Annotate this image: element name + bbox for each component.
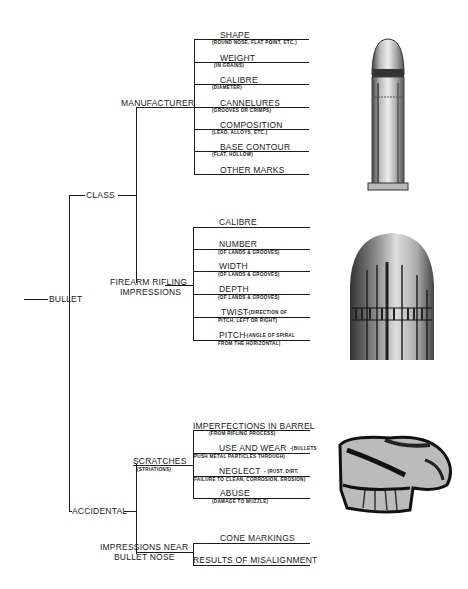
mfr-weight-sub: (IN GRAINS) — [214, 64, 244, 69]
rif-width: WIDTH — [219, 262, 248, 271]
scr-imperfections-sub: (FROM RIFLING PROCESS) — [209, 432, 276, 437]
nose-cone-markings: CONE MARKINGS — [220, 534, 295, 543]
rif-pitch-inline: -(ANGLE OF SPIRAL — [245, 334, 295, 339]
mfr-cannelures-sub: (GROOVES OR CRIMPS) — [212, 109, 271, 114]
rif-pitch: PITCH — [219, 331, 246, 340]
node-nose-line1: IMPRESSIONS NEAR — [100, 543, 188, 552]
nose-out-line — [136, 552, 193, 553]
class-branch-line — [69, 195, 85, 196]
scr-neglect-inline: - (RUST, DIRT, — [264, 470, 299, 475]
mfr-calibre-sub: (DIAMETER) — [212, 86, 242, 91]
rif-number: NUMBER — [219, 240, 257, 249]
rifling-out-line — [165, 285, 193, 286]
rif-number-sub: (OF LANDS & GROOVES) — [218, 251, 280, 256]
scr-use-wear-inline: -(BULLETS — [290, 447, 317, 452]
rif-width-sub: (OF LANDS & GROOVES) — [218, 273, 280, 278]
mfr-shape-sub: (ROUND NOSE, FLAT POINT, ETC.) — [212, 41, 297, 46]
mfr-base-contour-sub: (FLAT, HOLLOW) — [212, 153, 253, 158]
class-vertical-line — [136, 107, 137, 283]
deformed-bullet-photo — [335, 430, 460, 515]
nose-sep-1 — [193, 543, 310, 544]
rif-depth-sub: (OF LANDS & GROOVES) — [218, 296, 280, 301]
mfr-cannelures: CANNELURES — [220, 99, 280, 108]
rif-calibre: CALIBRE — [219, 218, 257, 227]
rif-sep-1 — [193, 227, 310, 228]
rif-depth: DEPTH — [219, 285, 249, 294]
rifling-bracket-line — [193, 227, 194, 341]
scr-neglect: NEGLECT — [219, 467, 261, 476]
node-class: CLASS — [86, 191, 115, 200]
mfr-calibre: CALIBRE — [220, 76, 258, 85]
scratches-bracket-line — [193, 430, 194, 498]
bullet-rifling-photo — [342, 230, 442, 365]
mfr-base-contour: BASE CONTOUR — [220, 143, 290, 152]
mfr-other-marks: OTHER MARKS — [220, 166, 285, 175]
rif-twist-sub: PITCH, LEFT OR RIGHT) — [218, 319, 277, 324]
nose-misalignment: RESULTS OF MISALIGNMENT — [193, 556, 317, 565]
scr-neglect-sub: FAILURE TO CLEAN, CORROSION, EROSION) — [194, 478, 306, 483]
cartridge-photo — [358, 35, 418, 195]
accidental-vertical-line — [136, 464, 137, 554]
scr-use-wear-sub: PUSH METAL PARTICLES THROUGH) — [194, 455, 285, 460]
accidental-out-line — [124, 511, 136, 512]
mfr-weight: WEIGHT — [220, 54, 255, 63]
nose-sep-2 — [193, 565, 310, 566]
scratches-underline — [133, 465, 193, 466]
node-nose-line2: BULLET NOSE — [114, 553, 175, 562]
node-scratches-sub: (STRIATIONS) — [137, 468, 171, 473]
node-rifling-line2: IMPRESSIONS — [120, 288, 181, 297]
scr-abuse: ABUSE — [220, 489, 250, 498]
class-out-line — [118, 195, 136, 196]
rif-pitch-sub: FROM THE HORIZONTAL) — [218, 342, 281, 347]
manufacturer-out-line — [136, 107, 194, 108]
scr-abuse-sub: (DAMAGE TO MUZZLE) — [212, 500, 268, 505]
node-accidental: ACCIDENTAL — [72, 507, 127, 516]
mfr-composition-sub: (LEAD, ALLOYS, ETC.) — [212, 131, 268, 136]
root-stub-line — [24, 299, 48, 300]
mfr-composition: COMPOSITION — [220, 121, 283, 130]
rif-twist: TWIST — [221, 308, 248, 317]
node-bullet: BULLET — [49, 295, 82, 304]
trunk-line — [69, 195, 70, 511]
scr-use-wear: USE AND WEAR — [219, 444, 287, 453]
rif-twist-inline: -(DIRECTION OF — [247, 311, 287, 316]
